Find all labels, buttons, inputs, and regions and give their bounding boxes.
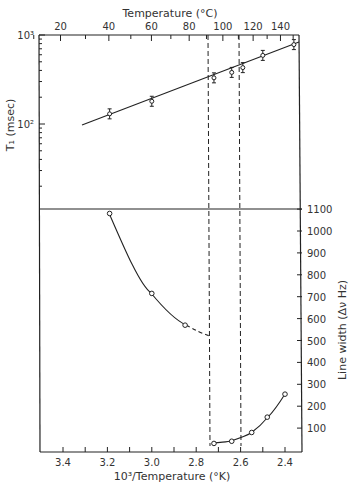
top-tick-label: 20	[54, 21, 67, 32]
bottom-tick-label: 3.4	[55, 457, 71, 468]
bottom-tick-label: 2.8	[188, 457, 204, 468]
t1-data-point	[261, 53, 265, 57]
linewidth-data-point	[249, 430, 254, 435]
left-axis-ticks: 10³10²	[17, 30, 45, 186]
right-tick-label: 1100	[307, 204, 332, 215]
right-tick-label: 800	[307, 270, 326, 281]
bottom-tick-label: 3.0	[144, 457, 160, 468]
top-axis-ticks: 20406080100120140	[34, 21, 293, 41]
bottom-tick-label: 2.4	[277, 457, 293, 468]
right-tick-label: 600	[307, 314, 326, 325]
top-tick-label: 40	[103, 21, 116, 32]
linewidth-data-point	[212, 441, 217, 446]
t1-data-point	[292, 43, 296, 47]
bottom-tick-label: 3.2	[99, 457, 115, 468]
t1-data-point	[212, 76, 216, 80]
left-tick-label: 10²	[17, 119, 34, 130]
left-tick-label: 10³	[17, 30, 34, 41]
right-tick-label: 100	[307, 423, 326, 434]
top-tick-label: 80	[183, 21, 196, 32]
top-tick-label: 140	[271, 21, 290, 32]
linewidth-data-point	[107, 211, 112, 216]
t1-data-point	[230, 70, 234, 74]
linewidth-data-point	[183, 323, 188, 328]
right-tick-label: 400	[307, 357, 326, 368]
linewidth-data-point	[265, 415, 270, 420]
t1-data-point	[108, 112, 112, 116]
chart: 20406080100120140 10³10² 110010009008007…	[0, 0, 357, 493]
top-tick-label: 120	[244, 21, 263, 32]
linewidth-data-point	[229, 439, 234, 444]
t1-data-point	[150, 99, 154, 103]
right-tick-label: 700	[307, 292, 326, 303]
linewidth-curve-low-temp-extrapolation	[186, 325, 210, 336]
right-axis-ticks: 11001000900800700600500400300200100	[297, 204, 332, 434]
right-tick-label: 500	[307, 336, 326, 347]
bottom-tick-label: 2.6	[233, 457, 249, 468]
right-tick-label: 900	[307, 248, 326, 259]
top-tick-label: 60	[145, 21, 158, 32]
bottom-axis-title: 10³/Temperature (°K)	[114, 470, 231, 483]
bottom-axis-ticks: 3.43.23.02.82.62.4	[55, 447, 293, 468]
linewidth-data-point	[150, 291, 155, 296]
linewidth-data-point	[283, 392, 288, 397]
linewidth-data-points	[107, 211, 287, 446]
dashed-reference-lines	[208, 35, 241, 446]
right-axis-title: Line width (Δν Hz)	[336, 280, 349, 380]
top-tick-label: 100	[213, 21, 232, 32]
right-tick-label: 200	[307, 401, 326, 412]
t1-data-point	[241, 66, 245, 70]
top-axis-title: Temperature (°C)	[122, 7, 218, 20]
linewidth-curve-low-temp	[109, 213, 186, 325]
right-tick-label: 300	[307, 379, 326, 390]
plot-frame	[39, 35, 302, 452]
t1-fit-line	[82, 42, 299, 125]
right-tick-label: 1000	[307, 226, 332, 237]
left-axis-title: T₁ (msec)	[4, 99, 17, 152]
linewidth-curve-high-temp	[214, 394, 285, 443]
